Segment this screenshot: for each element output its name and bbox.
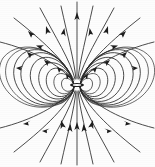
- dipole-core-group: [70, 83, 84, 87]
- dipole-field-figure: [0, 0, 155, 167]
- dipole-core-highlight: [73, 84, 81, 86]
- field-line-canvas: [0, 0, 155, 167]
